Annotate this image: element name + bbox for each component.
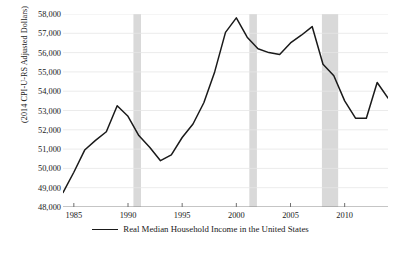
x-tick-label: 1995: [174, 211, 191, 220]
x-tick-label: 1990: [120, 211, 137, 220]
y-tick-label: 49,000: [38, 183, 61, 192]
x-tick-label: 2000: [228, 211, 245, 220]
plot-area: [63, 14, 388, 207]
x-axis-tick-labels: 198519901995200020052010: [63, 208, 388, 222]
legend-line-swatch: [92, 229, 118, 230]
chart-legend: Real Median Household Income in the Unit…: [0, 224, 401, 234]
y-tick-label: 51,000: [38, 145, 61, 154]
x-tick-label: 1985: [65, 211, 82, 220]
y-tick-label: 55,000: [38, 67, 61, 76]
y-tick-label: 56,000: [38, 48, 61, 57]
y-axis-tick-labels: 48,00049,00050,00051,00052,00053,00054,0…: [18, 14, 61, 207]
legend-entry-label: Real Median Household Income in the Unit…: [123, 224, 308, 234]
y-tick-label: 58,000: [38, 10, 61, 19]
series-line-0: [63, 18, 388, 193]
y-tick-label: 53,000: [38, 106, 61, 115]
x-tick-label: 2005: [282, 211, 299, 220]
y-tick-label: 48,000: [38, 203, 61, 212]
y-tick-label: 50,000: [38, 164, 61, 173]
figure-caption: [1, 250, 400, 259]
figure-container: (2014 CPI-U-RS Adjusted Dollars) 48,0004…: [0, 0, 401, 259]
chart-svg: [63, 14, 388, 207]
y-tick-label: 54,000: [38, 87, 61, 96]
y-tick-label: 52,000: [38, 125, 61, 134]
x-tick-label: 2010: [336, 211, 353, 220]
y-tick-label: 57,000: [38, 29, 61, 38]
